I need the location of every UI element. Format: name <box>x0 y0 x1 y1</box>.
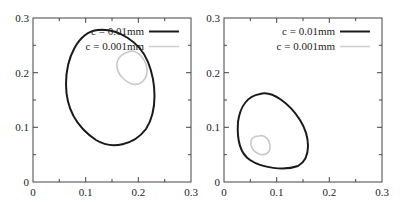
legend: c = 0.01mm c = 0.001mm <box>86 25 179 52</box>
left-plot: 0 0.1 0.2 0.3 0 0.1 0.2 0.3 c = 0.01mm c… <box>15 12 198 198</box>
right-plot: 0 0.1 0.2 0.3 0 0.1 0.2 0.3 c = 0.01mm c… <box>206 12 389 198</box>
legend-label: c = 0.01mm <box>91 25 144 37</box>
y-tick-label: 0.2 <box>206 67 220 79</box>
x-tick-label: 0.3 <box>184 186 198 198</box>
y-tick-label: 0.1 <box>15 121 29 133</box>
x-tick-label: 0 <box>30 186 36 198</box>
figure: 0 0.1 0.2 0.3 0 0.1 0.2 0.3 c = 0.01mm c… <box>0 0 403 209</box>
y-tick-label: 0.3 <box>206 12 220 24</box>
x-tick-label: 0 <box>221 186 227 198</box>
y-tick-label: 0.1 <box>206 121 220 133</box>
legend-label: c = 0.001mm <box>86 40 145 52</box>
legend-label: c = 0.001mm <box>277 40 336 52</box>
legend-label: c = 0.01mm <box>282 25 335 37</box>
x-tick-label: 0.1 <box>270 186 284 198</box>
x-tick-label: 0.2 <box>131 186 145 198</box>
x-tick-label: 0.3 <box>375 186 389 198</box>
x-tick-label: 0.1 <box>79 186 93 198</box>
y-ticks <box>33 45 191 154</box>
series-c-0.001mm-loop <box>117 51 147 84</box>
series-c-0.01mm-loop <box>238 93 308 168</box>
y-tick-label: 0 <box>215 176 221 188</box>
y-tick-label: 0.3 <box>15 12 29 24</box>
y-tick-label: 0.2 <box>15 67 29 79</box>
x-tick-label: 0.2 <box>322 186 336 198</box>
series-c-0.001mm-loop <box>251 136 270 155</box>
legend: c = 0.01mm c = 0.001mm <box>277 25 370 52</box>
y-tick-label: 0 <box>24 176 30 188</box>
